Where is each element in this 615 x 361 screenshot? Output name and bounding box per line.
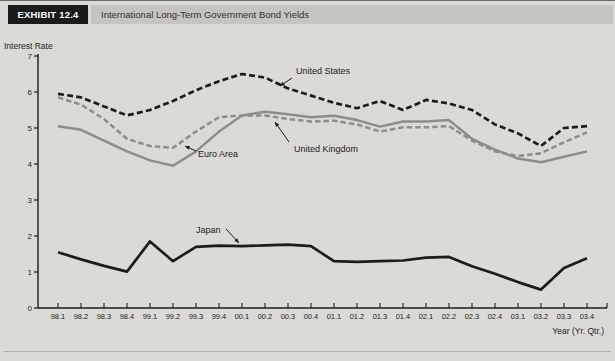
x-tick-label: 03.1 xyxy=(511,312,526,321)
series-line-euro-area xyxy=(58,112,587,166)
series-line-japan xyxy=(58,241,587,289)
x-tick-label: 02.4 xyxy=(488,312,503,321)
y-tick-label: 4 xyxy=(28,160,33,169)
y-tick-label: 6 xyxy=(28,88,33,97)
x-tick-label: 98.1 xyxy=(51,312,66,321)
annotation-euro-area-label: Euro Area xyxy=(198,149,238,159)
x-tick-label: 00.1 xyxy=(235,312,250,321)
x-tick-label: 98.2 xyxy=(74,312,89,321)
y-tick-label: 7 xyxy=(28,52,33,61)
x-tick-label: 01.3 xyxy=(373,312,388,321)
annotation-united-kingdom-arrowhead xyxy=(275,122,279,127)
y-tick-label: 5 xyxy=(28,124,33,133)
x-tick-label: 03.4 xyxy=(580,312,595,321)
x-tick-label: 00.2 xyxy=(258,312,273,321)
y-tick-label: 3 xyxy=(28,196,33,205)
x-tick-label: 02.1 xyxy=(419,312,434,321)
x-tick-label: 02.2 xyxy=(442,312,457,321)
annotation-united-kingdom-label: United Kingdom xyxy=(294,144,358,154)
x-tick-label: 99.4 xyxy=(212,312,227,321)
series-line-united-states xyxy=(58,74,587,146)
x-tick-label: 03.3 xyxy=(557,312,572,321)
x-tick-label: 99.2 xyxy=(166,312,181,321)
x-tick-label: 00.3 xyxy=(281,312,296,321)
exhibit-page: EXHIBIT 12.4 International Long-Term Gov… xyxy=(0,0,615,361)
x-tick-label: 01.2 xyxy=(350,312,365,321)
x-tick-label: 99.1 xyxy=(143,312,158,321)
x-tick-label: 01.1 xyxy=(327,312,342,321)
y-tick-label: 0 xyxy=(28,304,33,313)
x-tick-label: 01.4 xyxy=(396,312,411,321)
x-tick-label: 00.4 xyxy=(304,312,319,321)
annotation-united-states-label: United States xyxy=(296,66,351,76)
bond-yields-line-chart: 0123456798.198.298.398.499.199.299.399.4… xyxy=(0,1,615,361)
x-tick-label: 98.4 xyxy=(120,312,135,321)
x-tick-label: 03.2 xyxy=(534,312,549,321)
x-axis-title: Year (Yr. Qtr.) xyxy=(552,326,604,336)
annotation-japan-label: Japan xyxy=(196,225,221,235)
x-tick-label: 99.3 xyxy=(189,312,204,321)
bottom-divider-line xyxy=(4,351,611,352)
x-tick-label: 98.3 xyxy=(97,312,112,321)
y-tick-label: 2 xyxy=(28,232,33,241)
x-tick-label: 02.3 xyxy=(465,312,480,321)
y-tick-label: 1 xyxy=(28,268,33,277)
